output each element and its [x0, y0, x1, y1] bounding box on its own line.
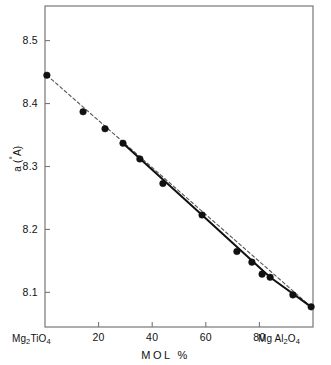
- data-point-marker: [234, 248, 241, 255]
- data-point-marker: [80, 108, 87, 115]
- data-point-marker: [120, 140, 127, 147]
- y-tick-label: 8.5: [23, 34, 39, 46]
- x-tick-label: 40: [146, 331, 158, 343]
- data-point-marker: [249, 259, 256, 266]
- x-axis-left-endpoint-label: Mg2TiO4: [12, 333, 51, 344]
- chart-figure: 8.18.28.38.48.5 20406080: [0, 0, 331, 365]
- y-tick-label: 8.3: [23, 160, 39, 172]
- data-point-marker: [199, 212, 206, 219]
- data-point-marker: [137, 156, 144, 163]
- data-point-marker: [308, 304, 315, 311]
- x-tick-label: 60: [200, 331, 212, 343]
- data-point-marker: [44, 72, 51, 79]
- data-point-marker: [259, 271, 266, 278]
- data-point-marker: [160, 180, 167, 187]
- data-point-marker: [290, 292, 297, 299]
- data-point-marker: [267, 274, 274, 281]
- y-tick-label: 8.2: [23, 223, 39, 235]
- data-point-marker: [102, 125, 109, 132]
- y-axis-title: a (°A): [9, 129, 22, 189]
- x-axis-title: MOL %: [0, 349, 331, 361]
- x-tick-label: 20: [92, 331, 104, 343]
- y-tick-label: 8.1: [23, 286, 39, 298]
- y-tick-label: 8.4: [23, 97, 39, 109]
- x-axis-right-endpoint-label: Mg Al2O4: [258, 333, 300, 344]
